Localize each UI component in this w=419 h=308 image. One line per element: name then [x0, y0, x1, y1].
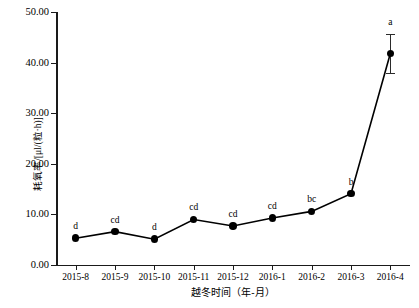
- significance-letter: cd: [268, 201, 277, 211]
- y-axis-tick: [51, 63, 56, 64]
- y-axis-title: 耗氧率/[μl/(粒·h)]: [34, 117, 44, 191]
- data-point-marker: [347, 190, 355, 198]
- significance-letter: cd: [111, 215, 120, 225]
- significance-letter: d: [73, 222, 78, 232]
- significance-letter: cd: [229, 210, 238, 220]
- y-axis-tick-label: 20.00: [25, 159, 49, 170]
- x-axis-tick-label: 2015-12: [217, 273, 249, 283]
- significance-letter: d: [152, 223, 157, 233]
- x-axis-tick: [390, 265, 391, 270]
- y-axis-tick: [51, 12, 56, 13]
- data-point-marker: [151, 235, 159, 243]
- data-point-marker: [111, 228, 119, 236]
- error-bar-cap: [386, 34, 395, 35]
- y-axis-tick: [51, 214, 56, 215]
- x-axis-tick-label: 2016-3: [338, 273, 365, 283]
- y-axis-tick-label: 40.00: [25, 57, 49, 68]
- x-axis-tick-label: 2016-1: [259, 273, 286, 283]
- x-axis-tick: [233, 265, 234, 270]
- y-axis-tick-label: 30.00: [25, 108, 49, 119]
- data-point-marker: [229, 222, 237, 230]
- significance-letter: b: [349, 177, 354, 187]
- x-axis-tick: [351, 265, 352, 270]
- error-bar-cap: [386, 73, 395, 74]
- y-axis-tick-label: 50.00: [25, 7, 49, 18]
- significance-letter: a: [388, 17, 392, 27]
- significance-letter: cd: [189, 203, 198, 213]
- x-axis-tick: [115, 265, 116, 270]
- x-axis-tick-label: 2015-11: [178, 273, 209, 283]
- x-axis-tick-label: 2015-9: [102, 273, 129, 283]
- x-axis-title: 越冬时间（年-月）: [56, 288, 410, 298]
- x-axis-tick: [154, 265, 155, 270]
- x-axis-tick: [194, 265, 195, 270]
- y-axis-tick: [51, 265, 56, 266]
- y-axis-tick-label: 10.00: [25, 209, 49, 220]
- x-axis-tick-label: 2015-8: [62, 273, 89, 283]
- y-axis-tick: [51, 113, 56, 114]
- y-axis-tick-label: 0.00: [31, 260, 49, 271]
- y-axis-tick: [51, 164, 56, 165]
- oxygen-consumption-line-chart: 耗氧率/[μl/(粒·h)] 0.0010.0020.0030.0040.005…: [0, 0, 419, 308]
- x-axis-tick-label: 2015-10: [138, 273, 170, 283]
- data-point-marker: [269, 214, 277, 222]
- x-axis-tick-label: 2016-2: [298, 273, 325, 283]
- plot-area: 0.0010.0020.0030.0040.0050.002015-82015-…: [56, 12, 410, 265]
- x-axis-tick: [312, 265, 313, 270]
- x-axis-tick: [76, 265, 77, 270]
- significance-letter: bc: [307, 195, 316, 205]
- x-axis-tick: [272, 265, 273, 270]
- x-axis-tick-label: 2016-4: [377, 273, 404, 283]
